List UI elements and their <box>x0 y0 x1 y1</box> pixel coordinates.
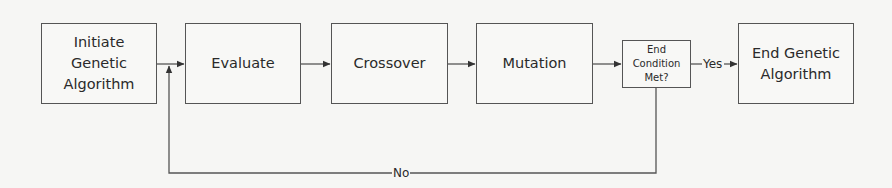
node-label-line: Initiate <box>63 32 134 53</box>
node-label-line: Algorithm <box>752 64 840 85</box>
node-mutation: Mutation <box>476 23 593 104</box>
node-label: Mutation <box>502 53 566 74</box>
node-initiate-genetic-algorithm: Initiate Genetic Algorithm <box>41 23 157 104</box>
node-label-line: Met? <box>633 71 681 85</box>
edge-label-no: No <box>392 166 410 180</box>
node-end-condition-met: End Condition Met? <box>622 40 691 88</box>
node-label: Evaluate <box>211 53 274 74</box>
node-label-line: Condition <box>633 57 681 71</box>
node-label-line: Genetic <box>63 53 134 74</box>
node-label-line: End Genetic <box>752 43 840 64</box>
node-end-genetic-algorithm: End Genetic Algorithm <box>738 23 854 104</box>
node-evaluate: Evaluate <box>185 23 301 104</box>
node-label-line: Algorithm <box>63 74 134 95</box>
node-label: Crossover <box>353 53 425 74</box>
node-crossover: Crossover <box>331 23 448 104</box>
edge-label-yes: Yes <box>702 57 723 71</box>
node-label-line: End <box>633 43 681 57</box>
